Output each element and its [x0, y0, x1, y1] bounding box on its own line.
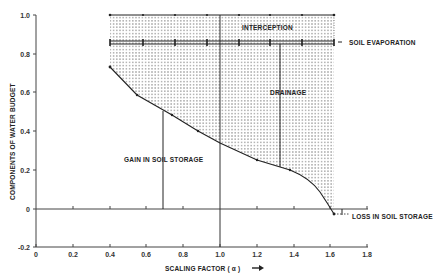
svg-text:1.8: 1.8 — [362, 251, 372, 258]
y-axis-title: COMPONENTS OF WATER BUDGET — [9, 83, 16, 200]
svg-text:0.8: 0.8 — [20, 51, 30, 58]
svg-text:0.4: 0.4 — [20, 128, 30, 135]
svg-text:0.2: 0.2 — [20, 167, 30, 174]
x-axis-arrow-icon — [252, 265, 264, 271]
label-interception: INTERCEPTION — [242, 24, 293, 31]
svg-text:0.2: 0.2 — [68, 251, 78, 258]
y-tick-labels: 1.0 0.8 0.6 0.4 0.2 0 -0.2 — [18, 12, 30, 251]
svg-text:0.6: 0.6 — [141, 251, 151, 258]
water-budget-chart: 1.0 0.8 0.6 0.4 0.2 0 -0.2 0 0.2 0.4 0.6… — [0, 0, 440, 275]
svg-text:0.8: 0.8 — [178, 251, 188, 258]
x-axis-title: SCALING FACTOR ( α ) — [165, 265, 240, 273]
svg-text:-0.2: -0.2 — [18, 244, 30, 251]
svg-text:1.6: 1.6 — [325, 251, 335, 258]
svg-text:0.6: 0.6 — [20, 89, 30, 96]
x-tick-labels: 0 0.2 0.4 0.6 0.8 1.0 1.2 1.4 1.6 1.8 — [34, 251, 372, 258]
svg-text:1.0: 1.0 — [20, 12, 30, 19]
svg-text:1.2: 1.2 — [252, 251, 262, 258]
label-drainage: DRAINAGE — [270, 89, 307, 96]
label-loss-in-soil-storage: LOSS IN SOIL STORAGE — [352, 213, 433, 220]
svg-text:0: 0 — [26, 206, 30, 213]
svg-text:1.0: 1.0 — [215, 251, 225, 258]
svg-text:1.4: 1.4 — [289, 251, 299, 258]
svg-text:0: 0 — [34, 251, 38, 258]
svg-text:0.4: 0.4 — [105, 251, 115, 258]
label-gain-in-soil-storage: GAIN IN SOIL STORAGE — [124, 156, 204, 163]
label-soil-evaporation: SOIL EVAPORATION — [349, 39, 416, 46]
